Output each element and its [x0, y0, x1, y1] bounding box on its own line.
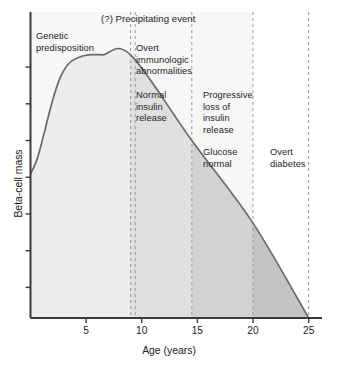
x-tick-label-20: 20 — [238, 325, 268, 336]
annotation-glucose-normal: Glucose normal — [203, 147, 237, 170]
y-axis-label: Beta-cell mass — [13, 114, 24, 254]
annotation-genetic-predisposition: Genetic predisposition — [36, 31, 94, 54]
beta-cell-mass-chart: (?) Precipitating event Genetic predispo… — [0, 0, 338, 367]
x-tick-label-15: 15 — [182, 325, 212, 336]
x-tick-label-5: 5 — [71, 325, 101, 336]
annotation-overt-immunologic-abnormalities: Overt immunologic abnormalities — [136, 43, 192, 78]
x-axis-label: Age (years) — [0, 345, 338, 356]
x-tick-label-25: 25 — [294, 325, 324, 336]
x-tick-label-10: 10 — [127, 325, 157, 336]
annotation-progressive-loss-of-insulin-release: Progressive loss of insulin release — [203, 90, 253, 136]
annotation-precipitating-event: (?) Precipitating event — [101, 13, 195, 25]
annotation-overt-diabetes: Overt diabetes — [270, 147, 306, 170]
annotation-normal-insulin-release: Normal insulin release — [136, 90, 167, 125]
